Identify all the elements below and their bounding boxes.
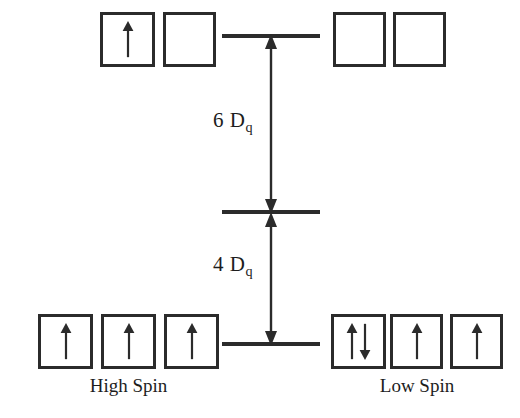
splitting-label-4dq-subscript: q [245, 263, 253, 279]
orbital-box-high-spin-eg-2 [163, 12, 216, 67]
orbital-box-high-spin-eg-1 [100, 12, 155, 67]
orbital-box-low-spin-eg-1 [333, 12, 386, 67]
splitting-arrow-6dq [262, 34, 280, 214]
energy-level-line-t2g [222, 342, 320, 346]
orbital-box-high-spin-t2g-3 [164, 314, 219, 369]
orbital-box-high-spin-t2g-2 [101, 314, 156, 369]
electron-spin-up-arrow [121, 21, 135, 58]
splitting-label-6dq: 6 Dq [213, 108, 253, 136]
splitting-arrow-4dq [262, 212, 280, 346]
electron-spin-up-arrow [185, 323, 199, 360]
orbital-box-low-spin-t2g-2 [390, 314, 443, 369]
splitting-label-4dq: 4 Dq [213, 252, 253, 280]
electron-spin-up-arrow [122, 323, 136, 360]
electron-spin-up-arrow [470, 323, 484, 360]
electron-spin-down-arrow [358, 323, 372, 360]
orbital-box-high-spin-t2g-1 [38, 314, 93, 369]
splitting-label-4dq-value: 4 [213, 252, 224, 276]
splitting-label-4dq-symbol: D [230, 252, 246, 276]
orbital-box-low-spin-eg-2 [393, 12, 446, 67]
orbital-box-low-spin-t2g-3 [450, 314, 503, 369]
crystal-field-splitting-diagram: 6 Dq 4 Dq [0, 0, 520, 418]
splitting-label-6dq-subscript: q [245, 119, 253, 135]
electron-spin-up-arrow [410, 323, 424, 360]
electron-spin-up-arrow [59, 323, 73, 360]
electron-spin-up-arrow [345, 323, 359, 360]
configuration-label-low-spin: Low Spin [331, 375, 503, 397]
configuration-label-high-spin: High Spin [38, 375, 219, 397]
splitting-label-6dq-value: 6 [213, 108, 224, 132]
orbital-box-low-spin-t2g-1 [331, 314, 386, 369]
splitting-label-6dq-symbol: D [230, 108, 246, 132]
